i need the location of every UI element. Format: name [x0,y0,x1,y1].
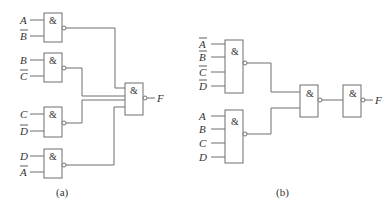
wires-a [66,28,125,165]
circuit-a: & A B & B C & C D [19,13,164,199]
wires-b [247,63,343,134]
svg-text:&: & [306,88,314,99]
svg-text:&: & [349,88,357,99]
input-label-b: B [199,123,206,135]
inversion-bubble-icon [62,26,66,30]
svg-text:&: & [49,15,57,26]
inversion-bubble-icon [243,132,247,136]
nand-gate-a-output: & F [125,83,164,115]
input-label-c-bar: C [199,66,207,78]
nand-gate-b-output: & F [343,85,382,117]
caption-a: (a) [56,186,69,199]
input-label-c-bar: C [20,70,28,82]
output-label-f: F [374,94,382,106]
nand-gate-b-middle: & [300,85,322,117]
input-label-d-bar: D [19,125,28,137]
caption-b: (b) [276,186,289,199]
inversion-bubble-icon [318,98,322,102]
svg-text:&: & [231,46,239,57]
inversion-bubble-icon [62,121,66,125]
svg-text:&: & [49,151,57,162]
svg-text:&: & [49,109,57,120]
input-label-b: B [20,54,27,66]
inversion-bubble-icon [361,98,365,102]
nand-gate-a2: & B C [20,53,66,82]
input-label-d: D [19,150,28,162]
input-label-d: D [198,151,207,163]
nand-gate-b2: & A B C D [198,110,247,163]
input-label-a-bar: A [198,38,206,50]
input-label-d-bar: D [198,80,207,92]
svg-text:&: & [130,85,138,96]
input-label-b-bar: B [199,51,206,63]
nand-gate-a3: & C D [19,107,66,137]
inversion-bubble-icon [143,96,147,100]
input-label-c: C [199,137,207,149]
circuit-b: & A B C D & A B C D [198,38,382,199]
nand-gate-a1: & A B [19,13,66,42]
svg-text:&: & [231,116,239,127]
input-label-a-bar: A [19,166,27,178]
inversion-bubble-icon [243,61,247,65]
input-label-b-bar: B [20,30,27,42]
output-label-f: F [156,92,164,104]
inversion-bubble-icon [62,163,66,167]
logic-circuit-diagram: & A B & B C & C D [0,0,390,211]
input-label-a: A [19,14,27,26]
nand-gate-a4: & D A [19,149,66,178]
nand-gate-b1: & A B C D [198,38,247,93]
input-label-a: A [198,110,206,122]
inversion-bubble-icon [62,66,66,70]
svg-text:&: & [49,55,57,66]
input-label-c: C [20,108,28,120]
